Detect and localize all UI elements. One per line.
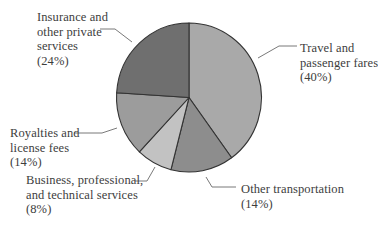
label-line: Insurance and: [37, 10, 108, 25]
label-line: Other transportation: [241, 182, 344, 197]
label-line: Travel and: [300, 41, 378, 56]
label-other-transportation: Other transportation (14%): [241, 182, 344, 211]
pie-slices: [116, 23, 261, 172]
label-percent: (14%): [241, 197, 344, 212]
label-royalties-and-license-fees: Royalties and license fees (14%): [10, 126, 80, 170]
label-line: license fees: [10, 141, 80, 156]
leader-line-other-transportation: [206, 177, 236, 187]
label-line: Business, professional,: [26, 173, 143, 188]
label-percent: (8%): [26, 202, 143, 217]
label-line: Royalties and: [10, 126, 80, 141]
label-insurance-and-other-private-services: Insurance and other private services (24…: [37, 10, 108, 68]
label-line: and technical services: [26, 188, 143, 203]
label-line: other private: [37, 25, 108, 40]
label-percent: (24%): [37, 54, 108, 69]
label-business-professional-technical-services: Business, professional, and technical se…: [26, 173, 143, 217]
leader-line-travel: [258, 46, 297, 58]
pie-slice-insurance-and-other-private-services: [117, 23, 189, 98]
label-line: passenger fares: [300, 56, 378, 71]
label-line: services: [37, 39, 108, 54]
label-travel-and-passenger-fares: Travel and passenger fares (40%): [300, 41, 378, 85]
label-percent: (40%): [300, 70, 378, 85]
label-percent: (14%): [10, 155, 80, 170]
leader-line-royalties: [74, 128, 117, 133]
